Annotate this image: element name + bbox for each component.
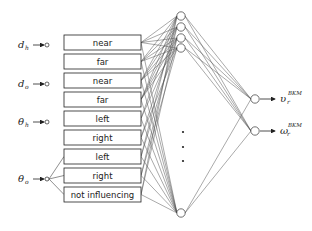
output-0: υrBKM bbox=[251, 90, 302, 105]
fuzzy-set-label: not influencing bbox=[71, 190, 135, 200]
fuzzy-set-8: not influencing bbox=[64, 187, 141, 202]
fuzzy-set-boxes: nearfarnearfarleftrightleftrightnot infl… bbox=[64, 35, 141, 202]
input-symbol: d bbox=[18, 78, 24, 89]
hidden-node bbox=[177, 23, 185, 31]
input-0: dh bbox=[18, 39, 49, 51]
input-symbol: d bbox=[18, 39, 24, 50]
fuzzy-set-label: near bbox=[93, 38, 113, 48]
output-node bbox=[251, 95, 259, 103]
input-node bbox=[45, 177, 49, 181]
hidden-to-output-connections bbox=[185, 16, 251, 213]
fuzzy-set-0: near bbox=[64, 35, 141, 50]
output-node bbox=[251, 127, 259, 135]
input-2: θh bbox=[18, 116, 49, 128]
fuzzy-set-6: left bbox=[64, 149, 141, 164]
output-symbol: υ bbox=[280, 93, 286, 104]
input-layer: dhdoθhθo bbox=[18, 39, 49, 185]
output-subscript: r bbox=[287, 98, 291, 105]
hidden-layer bbox=[177, 12, 185, 217]
output-subscript: r bbox=[287, 130, 291, 137]
hidden-node bbox=[177, 209, 185, 217]
ellipsis-dot bbox=[182, 160, 184, 162]
input-1: do bbox=[18, 78, 49, 90]
input-symbol: θ bbox=[18, 173, 24, 184]
input-node bbox=[45, 120, 49, 124]
fuzzy-set-5: right bbox=[64, 130, 141, 145]
input-subscript: o bbox=[25, 178, 29, 185]
fuzzy-set-4: left bbox=[64, 111, 141, 126]
output-superscript: BKM bbox=[287, 122, 302, 128]
input-3: θo bbox=[18, 173, 49, 185]
fuzzy-set-7: right bbox=[64, 168, 141, 183]
neural-network-diagram: dhdoθhθo nearfarnearfarleftrightleftrigh… bbox=[0, 0, 312, 231]
input-subscript: h bbox=[25, 121, 29, 128]
ellipsis-dot bbox=[182, 146, 184, 148]
fuzzy-set-label: left bbox=[96, 114, 110, 124]
fuzzy-set-label: right bbox=[93, 133, 114, 143]
fuzzy-set-label: right bbox=[93, 171, 114, 181]
input-symbol: θ bbox=[18, 116, 24, 127]
input-subscript: o bbox=[25, 83, 29, 90]
fuzzy-set-label: near bbox=[93, 76, 113, 86]
output-1: ωrBKM bbox=[251, 122, 302, 137]
fuzzy-set-label: far bbox=[97, 95, 109, 105]
fuzzy-set-label: left bbox=[96, 152, 110, 162]
fuzzy-set-2: near bbox=[64, 73, 141, 88]
hidden-node bbox=[177, 34, 185, 42]
input-node bbox=[45, 43, 49, 47]
set-to-hidden-connections bbox=[141, 16, 177, 213]
ellipsis-dot bbox=[182, 131, 184, 133]
hidden-ellipsis bbox=[182, 131, 184, 162]
input-node bbox=[45, 82, 49, 86]
output-superscript: BKM bbox=[287, 90, 302, 96]
fuzzy-set-label: far bbox=[97, 57, 109, 67]
hidden-node bbox=[177, 12, 185, 20]
input-subscript: h bbox=[25, 44, 29, 51]
fuzzy-set-3: far bbox=[64, 92, 141, 107]
input-to-set-connections bbox=[49, 157, 64, 195]
output-layer: υrBKMωrBKM bbox=[251, 90, 302, 137]
hidden-node bbox=[177, 44, 185, 52]
fuzzy-set-1: far bbox=[64, 54, 141, 69]
